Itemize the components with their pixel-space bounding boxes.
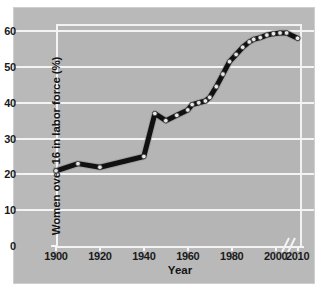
data-point-marker bbox=[190, 102, 195, 107]
series-line-shadow bbox=[56, 33, 298, 171]
data-point-marker bbox=[207, 95, 212, 100]
data-point-marker bbox=[153, 111, 158, 116]
data-point-marker bbox=[54, 169, 59, 174]
data-point-marker bbox=[98, 165, 103, 170]
data-series-layer bbox=[14, 8, 314, 283]
data-point-marker bbox=[142, 154, 147, 159]
data-point-marker bbox=[203, 99, 208, 104]
data-point-marker bbox=[76, 161, 81, 166]
series-line bbox=[56, 33, 298, 171]
data-point-marker bbox=[284, 31, 289, 36]
data-point-marker bbox=[227, 59, 232, 64]
data-point-marker bbox=[271, 31, 276, 36]
data-point-marker bbox=[185, 108, 190, 113]
data-point-marker bbox=[221, 72, 226, 77]
data-point-marker bbox=[295, 36, 300, 41]
data-point-marker bbox=[278, 31, 283, 36]
data-point-marker bbox=[258, 35, 263, 40]
data-point-marker bbox=[175, 113, 180, 118]
data-point-marker bbox=[265, 33, 270, 38]
data-point-marker bbox=[214, 84, 219, 89]
data-point-marker bbox=[240, 45, 245, 50]
data-point-marker bbox=[196, 100, 201, 105]
chart-figure: 0102030405060 19001920194019601980200020… bbox=[14, 8, 314, 283]
data-point-marker bbox=[234, 52, 239, 57]
data-point-marker bbox=[251, 37, 256, 42]
data-point-marker bbox=[164, 118, 169, 123]
data-point-marker bbox=[247, 40, 252, 45]
